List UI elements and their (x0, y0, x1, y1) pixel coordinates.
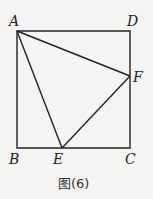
segment-af (17, 31, 130, 76)
label-e: E (52, 151, 63, 167)
label-b: B (8, 151, 19, 167)
segment-ef (62, 76, 130, 148)
square-abcd (17, 31, 130, 148)
figure-caption: 图(6) (58, 176, 89, 191)
square-diagram: A D F B E C 图(6) (0, 0, 153, 199)
label-c: C (125, 151, 136, 167)
label-a: A (7, 13, 19, 29)
label-d: D (126, 13, 138, 29)
label-f: F (132, 69, 144, 85)
segment-ae (17, 31, 62, 148)
